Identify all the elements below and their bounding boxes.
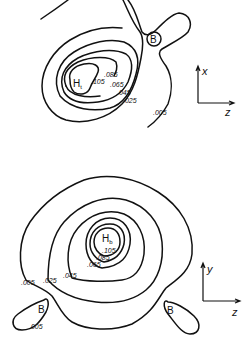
axis-label-z-top: z [224, 106, 231, 118]
axis-z-arrow-top [198, 101, 234, 105]
contour-label-045-top: .045 [117, 89, 131, 96]
axis-label-y: y [206, 263, 214, 275]
boron-label-bottom-right: B [167, 305, 174, 316]
contour-label-025-top: .025 [123, 97, 137, 104]
contour-label-085-top: .085 [104, 71, 118, 78]
bottom-panel: Hb .105 .085 .065 .045 .025 .005 B .005 … [13, 176, 240, 334]
contour-label-085-bottom: .085 [96, 254, 110, 261]
contour-label-005-bottom-lobe: .005 [29, 323, 43, 330]
axis-y-arrow [201, 263, 205, 301]
boron-label-bottom-left: B [38, 304, 45, 315]
axis-z-arrow-bottom [203, 299, 240, 303]
contour-label-045-bottom: .045 [63, 272, 77, 279]
contour-label-105-bottom: .105 [102, 247, 116, 254]
contour-label-065-bottom: .065 [87, 261, 101, 268]
contour-label-005-bottom: .005 [21, 279, 35, 286]
contour-figure: B Ht .105 .085 .065 .045 .025 .005 x z H… [0, 0, 251, 355]
axis-label-z-bottom: z [231, 306, 238, 318]
contour-label-005-top: .005 [153, 109, 167, 116]
contour-label-065-top: .065 [110, 81, 124, 88]
contour-label-105-top: .105 [91, 78, 105, 85]
top-panel: B Ht .105 .085 .065 .045 .025 .005 x z [41, 0, 234, 127]
atom-hb: Hb [102, 233, 113, 245]
boron-label-top: B [150, 34, 157, 45]
axis-label-x: x [201, 65, 208, 77]
atom-ht: Ht [73, 78, 82, 90]
contour-label-025-bottom: .025 [43, 277, 57, 284]
axis-x-arrow [196, 66, 200, 103]
contour-005-top-left [41, 0, 68, 19]
